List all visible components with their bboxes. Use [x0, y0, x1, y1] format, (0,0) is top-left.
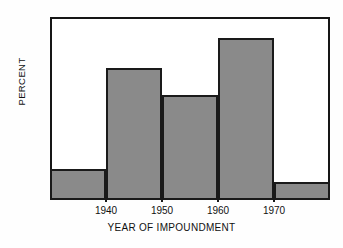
x-axis-title: YEAR OF IMPOUNDMENT	[0, 222, 343, 233]
x-tick-label: 1940	[86, 205, 126, 216]
x-tick-mark	[105, 190, 107, 202]
x-tick-label: 1960	[198, 205, 238, 216]
plot-area	[50, 17, 330, 200]
x-tick-label: 1970	[254, 205, 294, 216]
x-tick-mark	[161, 190, 163, 202]
y-axis-title: PERCENT	[16, 37, 27, 127]
x-tick-mark	[273, 190, 275, 202]
histogram-figure: PERCENT 010203040 1940195019601970 YEAR …	[0, 0, 343, 248]
x-tick-mark	[217, 190, 219, 202]
x-tick-label: 1950	[142, 205, 182, 216]
